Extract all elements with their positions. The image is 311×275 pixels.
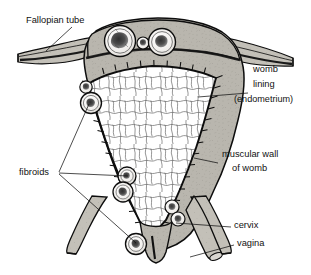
label-vagina: vagina (237, 238, 265, 248)
label-womb-lining-line1: womb (252, 64, 278, 74)
fibroid-fundus-left (105, 26, 136, 57)
label-muscular-wall-line2: of womb (232, 163, 267, 173)
fibroid-cervix-right-lower (171, 212, 185, 226)
label-womb-lining-line2: lining (253, 79, 275, 89)
fibroid-fundus-right (149, 29, 176, 56)
label-womb-lining-line3: (endometrium) (234, 94, 293, 104)
label-fibroids: fibroids (19, 167, 49, 177)
label-fallopian-tube: Fallopian tube (26, 15, 84, 25)
uterus-fibroid-diagram: Fallopian tube womb lining (endometrium)… (0, 0, 311, 275)
label-muscular-wall-line1: muscular wall (222, 149, 278, 159)
fibroid-fundus-center (137, 37, 149, 49)
fibroid-wall-left-lowest (113, 182, 133, 202)
fibroid-wall-left-upper (80, 81, 92, 93)
fibroid-wall-left-mid (81, 93, 102, 114)
label-cervix: cervix (234, 220, 259, 230)
